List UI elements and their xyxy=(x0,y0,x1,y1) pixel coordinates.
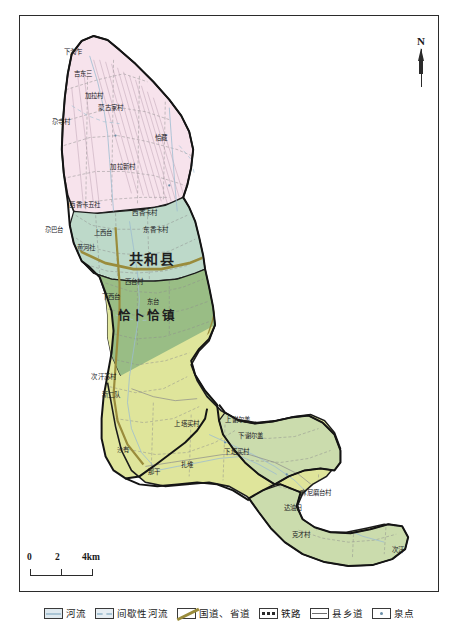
legend-item-national-road: 国道、省道 xyxy=(177,606,250,620)
spring-point-swatch-icon xyxy=(372,608,391,619)
intermittent-river-swatch-icon xyxy=(95,608,114,619)
village-label: 次汗苏村 xyxy=(91,372,116,381)
village-label: 麻尼磨台村 xyxy=(300,488,332,497)
village-label: 上塔买村 xyxy=(174,419,199,428)
legend-label-river: 河流 xyxy=(66,606,86,620)
legend-label-national-road: 国道、省道 xyxy=(199,606,250,620)
scale-bar: 0 2 4km xyxy=(27,552,127,584)
village-label: 上谢尔盖 xyxy=(225,415,250,424)
map-frame: 下淘乍 吉东三 加拉村 蒙古家村 尕寺村 恰藏 加拉新村 西香卡五社 西香卡村 … xyxy=(19,15,439,592)
map-figure: 下淘乍 吉东三 加拉村 蒙古家村 尕寺村 恰藏 加拉新村 西香卡五社 西香卡村 … xyxy=(0,0,458,629)
town-name-label: 恰卜恰镇 xyxy=(118,305,176,324)
map-canvas xyxy=(20,16,438,591)
village-label: 蒙古家村 xyxy=(98,103,123,112)
village-label: 西香卡五社 xyxy=(69,200,101,209)
legend-label-county-road: 县乡道 xyxy=(332,606,363,620)
scale-tick-0: 0 xyxy=(27,552,32,562)
legend-item-spring: 泉点 xyxy=(372,606,414,620)
village-label: 下塔买村 xyxy=(224,447,249,456)
railway-swatch-icon xyxy=(259,608,278,619)
village-label: 加拉村 xyxy=(85,91,104,100)
legend-label-spring: 泉点 xyxy=(394,606,414,620)
scale-tick-4: 4km xyxy=(82,552,100,562)
village-label: 下谢尔盖 xyxy=(238,431,263,440)
village-label: 下西台 xyxy=(102,292,121,301)
county-road-swatch-icon xyxy=(310,608,329,619)
village-label: 沙有 xyxy=(117,445,130,454)
village-label: 下淘乍 xyxy=(64,47,83,56)
village-label: 尕巴台 xyxy=(45,225,64,234)
county-name-label: 共和县 xyxy=(129,248,176,268)
village-label: 新二队 xyxy=(102,390,121,399)
village-label: 尕寺村 xyxy=(52,117,71,126)
legend-label-intermittent-river: 间歇性河流 xyxy=(117,606,168,620)
legend-item-county-road: 县乡道 xyxy=(310,606,363,620)
legend-item-intermittent-river: 间歇性河流 xyxy=(95,606,168,620)
river-swatch-icon xyxy=(44,608,63,619)
village-label: 那干 xyxy=(148,467,161,476)
legend-label-railway: 铁路 xyxy=(281,606,301,620)
village-label: 达油日 xyxy=(284,503,303,512)
village-label: 黄河社 xyxy=(77,243,96,252)
village-label: 西香卡村 xyxy=(132,208,157,217)
legend-item-river: 河流 xyxy=(44,606,86,620)
village-label: 上西台 xyxy=(94,228,113,237)
village-label: 扎堆 xyxy=(181,460,194,469)
village-label: 恰藏 xyxy=(155,133,168,142)
village-label: 次汗 xyxy=(392,545,405,554)
village-label: 加拉新村 xyxy=(110,162,135,171)
scale-bar-midtick xyxy=(61,569,62,576)
north-arrow-icon: N xyxy=(404,36,438,88)
legend-item-railway: 铁路 xyxy=(259,606,301,620)
village-label: 吉东三 xyxy=(74,69,93,78)
north-arrow-label: N xyxy=(404,36,438,47)
region-north xyxy=(62,36,193,215)
national-road-swatch-icon xyxy=(177,608,196,619)
village-label: 克才村 xyxy=(292,530,311,539)
village-label: 西台村 xyxy=(125,277,144,286)
north-arrow-body xyxy=(419,60,423,74)
scale-tick-2: 2 xyxy=(55,552,60,562)
map-legend: 河流 间歇性河流 国道、省道 铁路 县乡道 泉点 xyxy=(19,601,439,625)
village-label: 东香卡村 xyxy=(143,225,168,234)
